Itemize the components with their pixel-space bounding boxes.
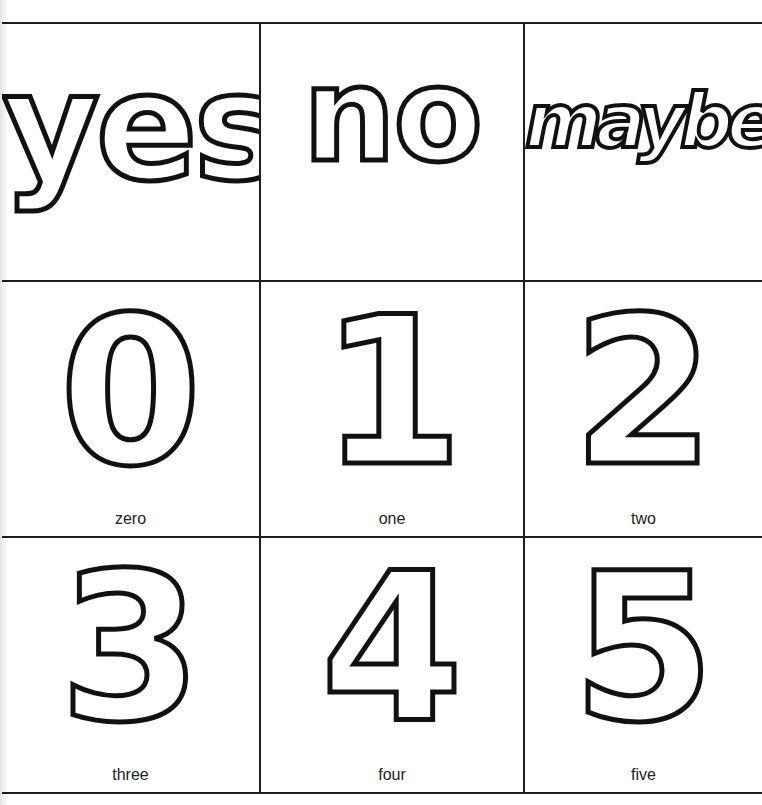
caption-one: one [261, 510, 523, 528]
card-three: 3 three [2, 538, 259, 792]
grid-divider-vertical-1 [259, 24, 261, 792]
card-five: 5 five [525, 538, 762, 792]
caption-two: two [525, 510, 762, 528]
caption-three: three [2, 766, 259, 784]
card-one: 1 one [261, 282, 523, 536]
card-yes: yes [2, 24, 259, 280]
caption-four: four [261, 766, 523, 784]
outlined-word-maybe: maybe [525, 84, 762, 158]
card-zero: 0 zero [2, 282, 259, 536]
outlined-digit-4: 4 [261, 546, 523, 751]
outlined-digit-5: 5 [525, 546, 762, 751]
grid-divider-vertical-2 [523, 24, 525, 792]
grid-divider-horizontal-2 [2, 536, 762, 538]
outlined-word-no: no [261, 50, 523, 180]
flashcard-grid: yes no maybe 0 zero 1 one 2 two 3 three … [2, 22, 762, 794]
card-maybe: maybe [525, 24, 762, 280]
caption-zero: zero [2, 510, 259, 528]
grid-divider-horizontal-1 [2, 280, 762, 282]
outlined-digit-3: 3 [2, 546, 259, 751]
outlined-digit-2: 2 [525, 290, 762, 495]
card-two: 2 two [525, 282, 762, 536]
card-four: 4 four [261, 538, 523, 792]
outlined-word-yes: yes [2, 52, 259, 202]
card-no: no [261, 24, 523, 280]
outlined-digit-1: 1 [261, 290, 523, 495]
outlined-digit-0: 0 [2, 290, 259, 495]
caption-five: five [525, 766, 762, 784]
